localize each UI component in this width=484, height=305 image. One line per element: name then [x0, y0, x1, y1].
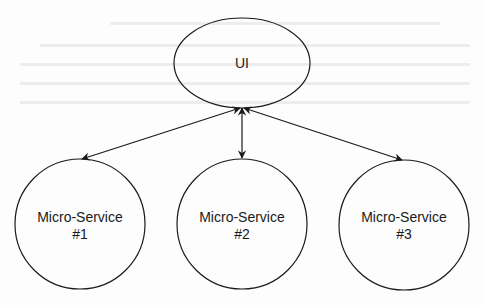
- ms3-label-line1: Micro-Service: [361, 209, 447, 225]
- edge-ui-ms1: [82, 108, 240, 159]
- ms1-label-line2: #1: [72, 226, 88, 242]
- edge-ui-ms3: [244, 108, 402, 160]
- ms3-circle: [339, 160, 469, 290]
- ms1-label-line1: Micro-Service: [37, 209, 123, 225]
- node-ui[interactable]: UI: [174, 18, 310, 108]
- architecture-diagram: UI Micro-Service #1 Micro-Service #2 Mic…: [0, 0, 484, 305]
- ui-label: UI: [235, 55, 249, 71]
- node-micro-service-1[interactable]: Micro-Service #1: [15, 159, 145, 289]
- node-micro-service-2[interactable]: Micro-Service #2: [177, 159, 307, 289]
- node-micro-service-3[interactable]: Micro-Service #3: [339, 160, 469, 290]
- ms2-label-line1: Micro-Service: [199, 209, 285, 225]
- ms2-label-line2: #2: [234, 226, 250, 242]
- ms3-label-line2: #3: [396, 226, 412, 242]
- diagram-canvas: UI Micro-Service #1 Micro-Service #2 Mic…: [0, 0, 484, 305]
